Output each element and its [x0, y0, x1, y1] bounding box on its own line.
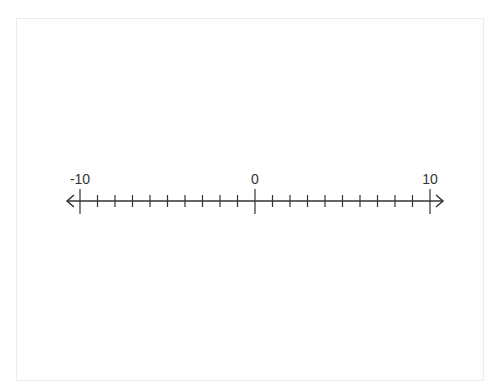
tick-label: 10 — [422, 171, 438, 187]
tick-label: -10 — [70, 171, 90, 187]
number-line-ticks — [80, 189, 430, 214]
tick-label: 0 — [251, 171, 259, 187]
number-line-labels: -10010 — [70, 171, 438, 187]
number-line: -10010 — [0, 0, 492, 387]
